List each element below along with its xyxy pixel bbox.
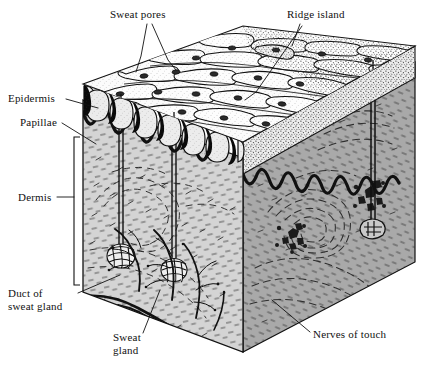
label-ridge-island: Ridge island xyxy=(287,8,345,20)
label-epidermis: Epidermis xyxy=(8,92,55,104)
label-duct-line-1: Duct of xyxy=(8,287,43,299)
skin-block-diagram-svg: Sweat pores Ridge island Epidermis Papil… xyxy=(0,0,434,373)
label-papillae: Papillae xyxy=(20,116,57,128)
label-sweat-gland-line-1: Sweat xyxy=(113,331,141,343)
sweat-gland-coil-right xyxy=(360,219,385,239)
label-sweat-gland-line-2: gland xyxy=(113,344,139,356)
label-sweat-pores: Sweat pores xyxy=(110,8,166,20)
label-nerves-of-touch: Nerves of touch xyxy=(313,328,387,340)
skin-diagram-figure: Sweat pores Ridge island Epidermis Papil… xyxy=(0,0,434,373)
label-dermis: Dermis xyxy=(18,191,52,203)
label-duct-line-2: sweat gland xyxy=(8,300,63,312)
